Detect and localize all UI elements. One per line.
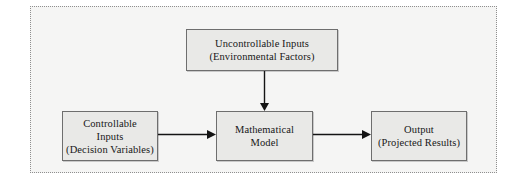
node-mathematical-model: Mathematical Model (216, 111, 313, 161)
node-output-line-1: Output (404, 123, 434, 136)
diagram-frame: Uncontrollable Inputs (Environmental Fac… (30, 6, 497, 173)
node-controllable-inputs-line-1: Controllable (83, 117, 137, 130)
arrow-mathematical-model-to-output (313, 129, 371, 140)
node-uncontrollable-inputs-line-1: Uncontrollable Inputs (215, 37, 309, 50)
arrow-uncontrollable-inputs-to-mathematical-model (259, 71, 270, 111)
node-mathematical-model-line-1: Mathematical (235, 123, 294, 136)
node-controllable-inputs-line-2: Inputs (97, 130, 124, 143)
node-output-line-2: (Projected Results) (378, 136, 460, 149)
node-uncontrollable-inputs-line-2: (Environmental Factors) (209, 50, 314, 63)
node-controllable-inputs: Controllable Inputs (Decision Variables) (62, 111, 158, 161)
diagram-canvas: Uncontrollable Inputs (Environmental Fac… (0, 0, 520, 182)
node-controllable-inputs-line-3: (Decision Variables) (66, 143, 154, 156)
node-uncontrollable-inputs: Uncontrollable Inputs (Environmental Fac… (186, 29, 338, 71)
node-mathematical-model-line-2: Model (251, 136, 279, 149)
node-output: Output (Projected Results) (371, 111, 467, 161)
arrow-controllable-inputs-to-mathematical-model (158, 129, 216, 140)
